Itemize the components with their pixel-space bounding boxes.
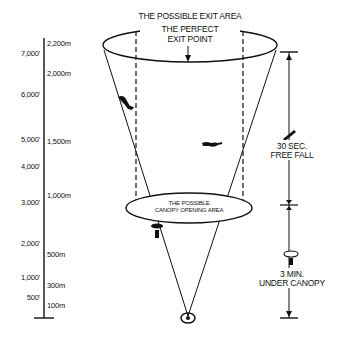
feet-3000: 3,000': [0, 199, 40, 207]
cone-left-edge: [104, 50, 188, 316]
arrow-down-icon: [185, 55, 191, 62]
free-fall-label: FREE FALL: [270, 151, 313, 159]
canopy-label: UNDER CANOPY: [259, 279, 325, 287]
skydiver-freefall-icon: [202, 142, 222, 147]
feet-2000: 2,000': [0, 240, 40, 248]
meters-2200: 2,200m: [47, 40, 71, 48]
meters-1500: 1,500m: [47, 138, 71, 146]
feet-6000: 6,000': [0, 91, 40, 99]
meters-1000: 1,000m: [47, 192, 71, 200]
exit-area-title: THE POSSIBLE EXIT AREA: [138, 12, 241, 20]
meters-100: 100m: [47, 302, 65, 310]
feet-500: 500': [0, 294, 40, 302]
canopy-area-label-2: CANOPY OPENING AREA: [155, 207, 223, 214]
canopy-area-label-1: THE POSSIBLE: [169, 200, 210, 207]
meters-500: 500m: [47, 251, 65, 259]
canopy-marker-icon: [284, 251, 298, 265]
meters-300: 300m: [47, 282, 65, 290]
feet-5000: 5,000': [0, 136, 40, 144]
free-fall-time: 30 SEC.: [277, 142, 307, 150]
diagram-graphics: [0, 0, 345, 342]
cone-right-edge: [188, 50, 276, 316]
feet-4000: 4,000': [0, 163, 40, 171]
feet-1000: 1,000': [0, 274, 40, 282]
canopy-time: 3 MIN.: [280, 270, 304, 278]
meters-2000: 2,000m: [47, 70, 71, 78]
feet-7000: 7,000': [0, 50, 40, 58]
exit-point-label-2: EXIT POINT: [167, 35, 212, 43]
exit-point-label-1: THE PERFECT: [162, 25, 219, 33]
